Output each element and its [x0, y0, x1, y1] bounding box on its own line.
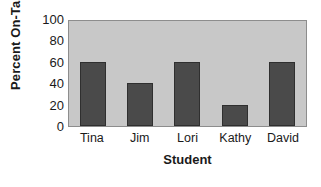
bar-david	[269, 62, 295, 126]
y-axis-tick-40: 40	[32, 77, 64, 90]
y-axis-tick-20: 20	[32, 99, 64, 112]
x-axis-tick-lori: Lori	[164, 131, 210, 146]
x-axis-tick-kathy: Kathy	[212, 131, 258, 146]
plot-area	[68, 20, 307, 127]
bar-chart: Percent On-Task 100806040200 TinaJimLori…	[0, 0, 321, 187]
x-axis-tick-david: David	[260, 131, 306, 146]
x-axis-tick-jim: Jim	[117, 131, 163, 146]
bar-kathy	[222, 105, 248, 126]
x-axis-tick-tina: Tina	[69, 131, 115, 146]
bar-tina	[80, 62, 106, 126]
y-axis-tick-100: 100	[32, 13, 64, 26]
y-axis-tick-0: 0	[32, 120, 64, 133]
bar-lori	[174, 62, 200, 126]
x-axis-tick-labels: TinaJimLoriKathyDavid	[68, 131, 307, 147]
y-axis-tick-labels: 100806040200	[28, 0, 64, 187]
y-axis-title: Percent On-Task	[6, 0, 26, 98]
y-axis-tick-80: 80	[32, 34, 64, 47]
bar-jim	[127, 83, 153, 126]
bar-series	[69, 21, 306, 126]
x-axis-title: Student	[68, 152, 307, 167]
y-axis-tick-60: 60	[32, 56, 64, 69]
